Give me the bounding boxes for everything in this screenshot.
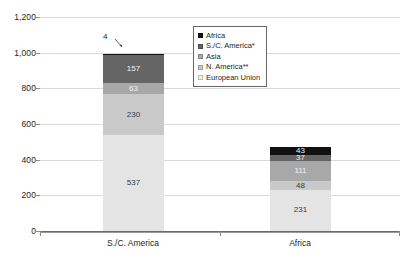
ytick-400	[36, 160, 40, 161]
bar-segment-value: 157	[127, 65, 140, 73]
bar-segment-sc-america[interactable]: 157	[103, 55, 164, 83]
gridline-200	[40, 195, 400, 196]
bar-segment-africa[interactable]: 43	[270, 147, 331, 155]
legend: Africa S./C. America* Asia N. America** …	[193, 26, 267, 87]
bar-segment-asia[interactable]: 111	[270, 161, 331, 181]
legend-label: Africa	[206, 32, 225, 40]
ytick-800	[36, 88, 40, 89]
bar-segment-value: 48	[296, 182, 305, 190]
gridline-600	[40, 124, 400, 125]
bar-segment-value: 63	[129, 85, 138, 93]
legend-swatch-icon	[198, 44, 203, 49]
xtick-mid	[220, 231, 221, 236]
bar-segment-european-union[interactable]: 231	[270, 190, 331, 231]
legend-swatch-icon	[198, 75, 203, 80]
y-axis-label: 1,200	[0, 13, 36, 22]
bar-segment-value: 231	[294, 206, 307, 214]
legend-item-european-union[interactable]: European Union	[198, 73, 260, 83]
legend-label: N. America**	[206, 63, 249, 71]
legend-swatch-icon	[198, 54, 203, 59]
ytick-200	[36, 195, 40, 196]
gridline-800	[40, 88, 400, 89]
bar-segment-value: 537	[127, 179, 140, 187]
xtick-left	[40, 231, 41, 236]
legend-label: S./C. America*	[206, 42, 255, 50]
bar-sc-america[interactable]: 4 157 63 230 537	[103, 54, 164, 231]
y-axis-label: 1,000	[0, 48, 36, 57]
legend-swatch-icon	[198, 65, 203, 70]
x-axis-label-africa: Africa	[289, 238, 311, 248]
bar-segment-n-america[interactable]: 48	[270, 181, 331, 190]
bar-segment-value: 37	[296, 155, 305, 162]
bar-segment-european-union[interactable]: 537	[103, 135, 164, 231]
bar-segment-sc-america[interactable]: 37	[270, 155, 331, 162]
bar-segment-value: 43	[296, 147, 305, 155]
legend-swatch-icon	[198, 33, 203, 38]
y-axis-label: 200	[0, 191, 36, 200]
legend-label: European Union	[206, 74, 260, 82]
xtick-right	[399, 231, 400, 236]
y-axis-label: 0	[0, 227, 36, 236]
stacked-bar-chart: 4 157 63 230 537 43 37 111	[0, 0, 413, 262]
bar-segment-n-america[interactable]: 230	[103, 94, 164, 135]
legend-label: Asia	[206, 53, 221, 61]
annotation-arrow-icon	[114, 38, 126, 50]
gridline-1200	[40, 17, 400, 18]
annotation-label: 4	[103, 33, 107, 41]
gridline-400	[40, 160, 400, 161]
y-axis-label: 800	[0, 84, 36, 93]
y-axis-label: 400	[0, 155, 36, 164]
x-axis-label-sc-america: S./C. America	[107, 238, 159, 248]
bar-segment-asia[interactable]: 63	[103, 83, 164, 94]
ytick-1200	[36, 17, 40, 18]
legend-item-n-america[interactable]: N. America**	[198, 62, 260, 72]
y-axis-labels: 1,200 1,000 800 600 400 200 0	[0, 17, 36, 231]
legend-item-asia[interactable]: Asia	[198, 52, 260, 62]
ytick-1000	[36, 53, 40, 54]
ytick-600	[36, 124, 40, 125]
legend-item-sc-america[interactable]: S./C. America*	[198, 41, 260, 51]
bar-segment-value: 111	[294, 167, 306, 175]
bar-segment-value: 230	[127, 111, 140, 119]
bar-africa[interactable]: 43 37 111 48 231	[270, 147, 331, 231]
y-axis-label: 600	[0, 120, 36, 129]
legend-item-africa[interactable]: Africa	[198, 31, 260, 41]
